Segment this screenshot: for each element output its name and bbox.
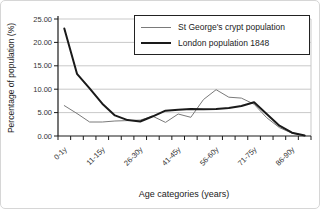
y-tick-label: 0.00	[37, 132, 52, 141]
legend-label-st-george: St George's crypt population	[178, 22, 285, 32]
st-george-line-swatch	[141, 27, 171, 28]
legend-item-london-1848: London population 1848	[141, 35, 303, 51]
x-tick-label: 11-15y	[85, 145, 107, 167]
y-axis-title: Percentage of population (%)	[6, 12, 18, 144]
legend: St George's crypt population London popu…	[134, 15, 310, 55]
london-line-swatch	[141, 42, 171, 44]
y-tick-label: 20.00	[33, 38, 52, 47]
y-tick-label: 5.00	[37, 108, 52, 117]
x-tick-label: 86-90y	[274, 145, 297, 168]
x-tick-label: 26-30y	[122, 145, 145, 168]
x-axis-title: Age categories (years)	[84, 189, 284, 199]
chart-figure: 0.005.0010.0015.0020.0025.000-1y11-15y26…	[0, 0, 320, 209]
x-tick-label: 71-75y	[236, 145, 259, 168]
x-tick-label: 0-1y	[52, 145, 69, 162]
y-tick-label: 25.00	[33, 15, 52, 24]
x-tick-label: 56-60y	[198, 145, 221, 168]
legend-item-st-george-crypt: St George's crypt population	[141, 19, 303, 35]
legend-label-london: London population 1848	[178, 38, 269, 48]
y-tick-label: 15.00	[33, 61, 52, 70]
y-tick-label: 10.00	[33, 85, 52, 94]
x-tick-label: 41-45y	[160, 145, 183, 168]
